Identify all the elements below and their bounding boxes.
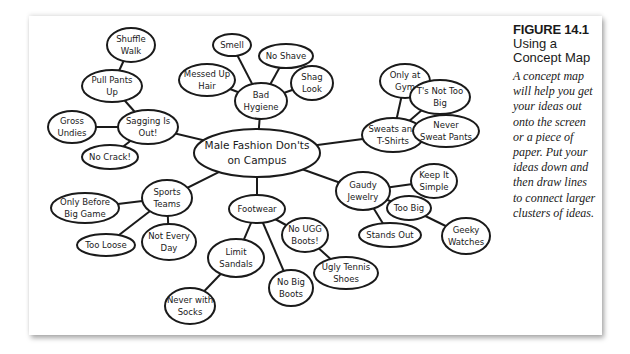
figure-number: FIGURE 14.1: [513, 23, 599, 37]
svg-text:Keep It: Keep It: [419, 170, 449, 180]
svg-text:Shag: Shag: [301, 72, 322, 82]
svg-text:Boots: Boots: [279, 289, 304, 299]
svg-text:Never: Never: [433, 120, 459, 130]
svg-text:Gaudy: Gaudy: [349, 180, 377, 190]
svg-text:Stands Out: Stands Out: [366, 230, 414, 240]
svg-text:Smell: Smell: [220, 40, 244, 50]
node-sports-teams: Sports Teams: [142, 180, 192, 216]
node-shag-look: Shag Look: [291, 66, 333, 100]
svg-text:Sweats and: Sweats and: [368, 124, 417, 134]
svg-text:Jewelry: Jewelry: [347, 192, 379, 202]
node-ugly-tennis-shoes: Ugly Tennis Shoes: [314, 257, 378, 289]
svg-text:Sagging Is: Sagging Is: [126, 116, 171, 126]
svg-text:Walk: Walk: [121, 46, 141, 56]
svg-text:Geeky: Geeky: [453, 225, 480, 235]
figure-caption: FIGURE 14.1 Using a Concept Map A concep…: [513, 23, 599, 221]
node-never-sweat-pants: Never Sweat Pants: [413, 115, 479, 147]
node-limit-sandals: Limit Sandals: [208, 239, 264, 277]
svg-text:Up: Up: [106, 87, 118, 97]
svg-text:Out!: Out!: [139, 128, 158, 138]
svg-text:Bad: Bad: [253, 90, 269, 100]
svg-text:Not Every: Not Every: [148, 231, 190, 241]
node-no-crack: No Crack!: [82, 145, 138, 169]
node-no-ugg-boots: No UGG Boots!: [282, 218, 328, 252]
svg-text:T-Shirts: T-Shirts: [376, 136, 409, 146]
node-gaudy-jewelry: Gaudy Jewelry: [336, 172, 390, 210]
node-center-male-fashion-donts: Male Fashion Don'ts on Campus: [194, 129, 320, 177]
node-stands-out: Stands Out: [359, 223, 421, 247]
svg-text:Big Game: Big Game: [64, 209, 106, 219]
node-keep-it-simple: Keep It Simple: [411, 164, 457, 198]
node-never-with-socks: Never with Socks: [165, 288, 215, 324]
svg-text:Big: Big: [433, 98, 447, 108]
node-ts-not-too-big: T's Not Too Big: [410, 80, 470, 114]
node-sagging-is-out: Sagging Is Out!: [118, 110, 178, 144]
node-gross-undies: Gross Undies: [48, 111, 96, 143]
svg-text:Messed Up: Messed Up: [184, 69, 230, 79]
svg-text:Simple: Simple: [419, 182, 448, 192]
svg-text:Hygiene: Hygiene: [243, 102, 278, 112]
svg-text:Sandals: Sandals: [219, 259, 253, 269]
node-only-before-big-game: Only Before Big Game: [51, 193, 119, 223]
svg-text:Day: Day: [161, 243, 178, 253]
svg-text:Teams: Teams: [153, 199, 181, 209]
svg-text:Male Fashion Don'ts: Male Fashion Don'ts: [205, 139, 310, 151]
node-not-every-day: Not Every Day: [142, 224, 196, 260]
svg-text:Limit: Limit: [225, 247, 247, 257]
svg-text:Sweat Pants: Sweat Pants: [420, 132, 472, 142]
svg-text:on Campus: on Campus: [227, 154, 286, 166]
svg-text:Hair: Hair: [198, 81, 216, 91]
node-pull-pants-up: Pull Pants Up: [82, 70, 142, 102]
svg-text:No Shave: No Shave: [266, 51, 307, 61]
svg-text:Only Before: Only Before: [60, 197, 110, 207]
svg-text:Gross: Gross: [60, 116, 85, 126]
node-no-big-boots: No Big Boots: [269, 270, 313, 306]
svg-text:Shoes: Shoes: [333, 274, 359, 284]
node-no-shave: No Shave: [259, 44, 313, 68]
node-too-loose: Too Loose: [77, 234, 135, 256]
node-messed-up-hair: Messed Up Hair: [179, 64, 235, 96]
svg-text:Look: Look: [302, 84, 322, 94]
svg-text:Only at: Only at: [390, 70, 421, 80]
node-geeky-watches: Geeky Watches: [442, 218, 490, 254]
svg-text:Watches: Watches: [448, 237, 485, 247]
svg-text:No UGG: No UGG: [288, 224, 322, 234]
svg-text:Too Big: Too Big: [393, 203, 424, 213]
svg-text:Never with: Never with: [167, 295, 213, 305]
svg-text:Too Loose: Too Loose: [84, 240, 127, 250]
svg-text:Socks: Socks: [178, 307, 203, 317]
svg-text:T's Not Too: T's Not Too: [416, 86, 463, 96]
node-bad-hygiene: Bad Hygiene: [235, 83, 287, 119]
figure-description: A concept map will help you get your ide…: [513, 69, 599, 221]
svg-text:Ugly Tennis: Ugly Tennis: [322, 262, 371, 272]
svg-text:Boots!: Boots!: [291, 236, 318, 246]
svg-text:Pull Pants: Pull Pants: [92, 75, 133, 85]
node-smell: Smell: [213, 34, 251, 56]
svg-text:Shuffle: Shuffle: [116, 34, 146, 44]
node-footwear: Footwear: [229, 195, 285, 223]
svg-text:Footwear: Footwear: [237, 204, 277, 214]
node-shuffle-walk: Shuffle Walk: [107, 28, 155, 62]
svg-text:Sports: Sports: [153, 187, 181, 197]
node-too-big: Too Big: [387, 196, 431, 220]
figure-title: Using a Concept Map: [513, 37, 599, 65]
svg-text:Undies: Undies: [57, 128, 87, 138]
svg-text:No Crack!: No Crack!: [89, 152, 131, 162]
svg-text:No Big: No Big: [277, 277, 305, 287]
